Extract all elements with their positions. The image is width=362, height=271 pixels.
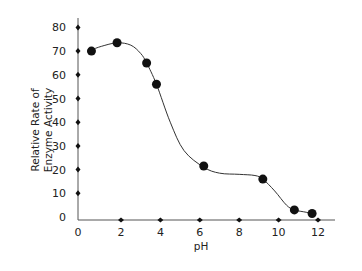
y-tick-mark (76, 119, 81, 125)
data-point (87, 47, 96, 56)
x-tick-mark (157, 218, 163, 223)
x-tick-label: 2 (118, 226, 125, 239)
x-tick-label: 6 (196, 226, 203, 239)
y-axis-title-line1: Relative Rate of (29, 88, 41, 172)
y-tick-mark (76, 143, 81, 149)
data-point (258, 175, 267, 184)
y-tick-mark (76, 167, 81, 173)
y-tick-label: 50 (52, 93, 66, 106)
data-point (113, 38, 122, 47)
data-point (142, 58, 151, 67)
series-curve (88, 43, 317, 215)
y-tick-label: 70 (52, 45, 66, 58)
x-tick-label: 4 (157, 226, 164, 239)
x-tick-label: 12 (311, 226, 325, 239)
y-tick-mark (76, 48, 81, 54)
x-tick-mark (197, 218, 203, 223)
enzyme-activity-chart: 01020304050607080 024681012 pH Relative … (0, 0, 362, 271)
data-point (290, 205, 299, 214)
x-tick-label: 8 (236, 226, 243, 239)
y-tick-label: 60 (52, 69, 66, 82)
y-tick-label: 30 (52, 140, 66, 153)
y-axis-title-line2: Enzyme Activity (42, 88, 54, 172)
y-tick-label: 10 (52, 187, 66, 200)
y-axis-ticks: 01020304050607080 (52, 21, 81, 224)
axes (78, 18, 335, 220)
y-tick-label: 40 (52, 116, 66, 129)
x-axis-title: pH (194, 240, 209, 252)
x-tick-label: 10 (272, 226, 286, 239)
data-points (87, 38, 317, 218)
y-tick-label: 0 (59, 211, 66, 224)
y-tick-label: 20 (52, 164, 66, 177)
x-tick-label: 0 (75, 226, 82, 239)
y-tick-label: 80 (52, 21, 66, 34)
x-tick-mark (315, 218, 321, 223)
y-tick-mark (76, 72, 81, 78)
x-tick-mark (118, 218, 124, 223)
data-point (308, 209, 317, 218)
data-point (152, 80, 161, 89)
data-point (199, 162, 208, 171)
x-tick-mark (276, 218, 282, 223)
y-tick-mark (76, 96, 81, 102)
y-tick-mark (76, 190, 81, 196)
x-tick-mark (236, 218, 242, 223)
y-tick-mark (76, 24, 81, 30)
x-axis-ticks: 024681012 (75, 218, 326, 240)
